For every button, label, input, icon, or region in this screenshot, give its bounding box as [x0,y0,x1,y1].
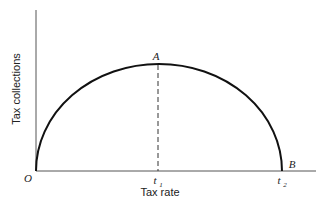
origin-label: O [24,172,32,184]
end-label-b: B [289,158,296,170]
peak-label-a: A [152,50,160,62]
svg-text:t: t [153,174,157,186]
laffer-curve [36,64,282,171]
y-axis-label: Tax collections [10,53,22,125]
svg-text:2: 2 [283,181,287,189]
svg-text:t: t [277,174,281,186]
svg-text:1: 1 [159,181,163,189]
laffer-curve-chart: Tax collections Tax rate O A B t 1 t 2 [0,0,330,207]
t2-label: t 2 [277,174,287,189]
